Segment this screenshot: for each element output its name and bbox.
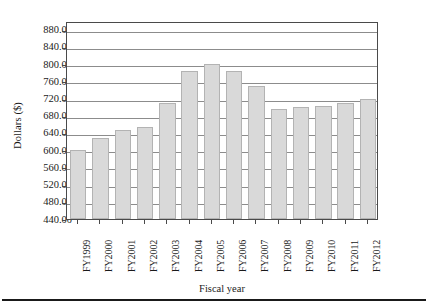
- x-tick-mark: [322, 220, 323, 224]
- x-tick-mark: [99, 220, 100, 224]
- x-tick-label: FY2007: [259, 240, 270, 272]
- bar: [337, 103, 354, 219]
- x-tick-mark: [144, 220, 145, 224]
- x-tick-label: FY2012: [371, 240, 382, 272]
- x-tick-label: FY2011: [349, 240, 360, 272]
- x-tick-label: FY1999: [81, 240, 92, 272]
- bar: [293, 107, 310, 219]
- x-tick-label: FY2000: [103, 240, 114, 272]
- bar: [70, 150, 87, 219]
- x-tick-mark: [300, 220, 301, 224]
- x-tick-mark: [77, 220, 78, 224]
- footer-rule: [2, 299, 426, 301]
- x-tick-mark: [166, 220, 167, 224]
- bar: [159, 103, 176, 219]
- bar: [226, 71, 243, 220]
- bar: [181, 71, 198, 220]
- gridline: [67, 101, 377, 102]
- x-tick-label: FY2006: [237, 240, 248, 272]
- x-tick-label: FY2008: [282, 240, 293, 272]
- bar: [137, 127, 154, 219]
- gridline: [67, 83, 377, 84]
- bar: [315, 106, 332, 219]
- bar: [92, 138, 109, 219]
- x-tick-label: FY2010: [326, 240, 337, 272]
- x-tick-mark: [345, 220, 346, 224]
- x-tick-label: FY2005: [215, 240, 226, 272]
- x-tick-mark: [255, 220, 256, 224]
- bar: [115, 130, 132, 219]
- gridline: [67, 49, 377, 50]
- x-tick-label: FY2001: [126, 240, 137, 272]
- x-tick-label: FY2003: [170, 240, 181, 272]
- bar-chart-figure: Dollars ($) 880.00840.00800.00760.00720.…: [0, 0, 428, 308]
- x-tick-label: FY2002: [148, 240, 159, 272]
- x-tick-mark: [367, 220, 368, 224]
- bar: [204, 64, 221, 219]
- y-tick-mark: [62, 220, 66, 221]
- x-tick-mark: [233, 220, 234, 224]
- bar: [360, 99, 377, 220]
- plot-area: [66, 22, 378, 220]
- x-tick-label: FY2004: [193, 240, 204, 272]
- gridline: [67, 66, 377, 67]
- bar: [271, 109, 288, 219]
- x-tick-mark: [189, 220, 190, 224]
- x-tick-mark: [278, 220, 279, 224]
- bar: [248, 86, 265, 219]
- gridline: [67, 32, 377, 33]
- x-tick-label: FY2009: [304, 240, 315, 272]
- x-tick-mark: [211, 220, 212, 224]
- x-axis-title: Fiscal year: [66, 283, 378, 294]
- x-tick-mark: [122, 220, 123, 224]
